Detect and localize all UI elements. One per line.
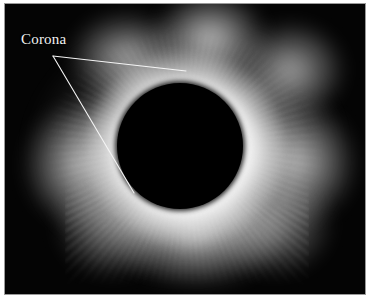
corona-upper-leader-line [53,56,186,71]
eclipse-figure: Corona [0,0,369,298]
corona-lower-leader-line [53,56,134,193]
corona-label: Corona [21,31,66,48]
